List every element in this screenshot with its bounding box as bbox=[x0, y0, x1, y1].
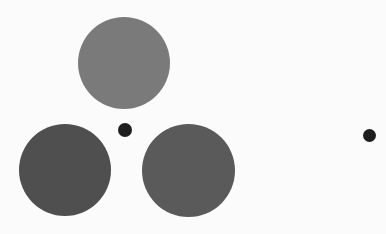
center-fixation-dot bbox=[118, 123, 132, 137]
top-gray-disk bbox=[78, 17, 170, 109]
right-fixation-dot bbox=[363, 129, 376, 142]
stimulus-canvas bbox=[0, 0, 386, 234]
bottom-left-gray-disk bbox=[19, 124, 111, 216]
bottom-right-gray-disk bbox=[142, 124, 235, 217]
